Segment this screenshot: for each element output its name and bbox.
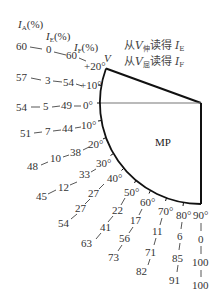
angle-label: 40° bbox=[107, 172, 122, 184]
angle-label: +10° bbox=[80, 79, 102, 91]
header-ia: IA(%) bbox=[17, 18, 44, 32]
if-value: 44 bbox=[62, 122, 74, 134]
ie-value: 41 bbox=[100, 221, 111, 233]
if-value: 33 bbox=[79, 168, 91, 180]
note-flexion: 从V屈读得IF bbox=[124, 54, 184, 69]
sector bbox=[97, 69, 201, 207]
ie-value: 10 bbox=[50, 152, 62, 164]
ie-value: 56 bbox=[119, 232, 131, 244]
ia-value: 51 bbox=[20, 127, 31, 139]
ia-value: 82 bbox=[136, 265, 147, 277]
angle-label: 60° bbox=[140, 196, 155, 208]
ia-value: 60 bbox=[16, 40, 28, 52]
ia-value: 57 bbox=[16, 71, 28, 83]
if-value: 17 bbox=[130, 214, 142, 226]
ia-ie-if-diagram: IA(%) IE(%) IF(%) V 从V伸读得IE 从V屈读得IF MP 6… bbox=[0, 0, 222, 304]
ia-value: 54 bbox=[58, 217, 70, 229]
angle-label: 80° bbox=[176, 209, 191, 221]
if-value: 38 bbox=[70, 146, 82, 158]
ie-value: 85 bbox=[172, 252, 184, 264]
angle-label: 90° bbox=[193, 209, 208, 221]
note-extension: 从V伸读得IE bbox=[124, 38, 184, 53]
region-label-mp: MP bbox=[155, 136, 171, 148]
ia-value: 73 bbox=[108, 251, 120, 263]
ie-value: 100 bbox=[192, 256, 209, 268]
ia-value: 45 bbox=[36, 190, 48, 202]
ie-value: 12 bbox=[58, 181, 69, 193]
ia-value: 54 bbox=[16, 101, 28, 113]
angle-label: +20° bbox=[84, 60, 106, 72]
radial-scale: 40° 27 27 54 50° 22 41 63 60° 17 56 73 7… bbox=[58, 172, 209, 291]
if-value: 27 bbox=[88, 187, 100, 199]
angle-label: 0° bbox=[83, 99, 93, 111]
left-scale: 60 0 60 +20° 57 3 54 +10° 54 5 49 0° 51 … bbox=[16, 40, 111, 202]
if-value: 22 bbox=[112, 204, 123, 216]
ie-value: 3 bbox=[45, 74, 51, 86]
angle-label: 20° bbox=[88, 138, 103, 150]
ie-value: 0 bbox=[46, 43, 52, 55]
if-value: 0 bbox=[198, 233, 204, 245]
ia-value: 100 bbox=[192, 279, 209, 291]
angle-label: 70° bbox=[158, 205, 173, 217]
angle-label: 30° bbox=[96, 157, 111, 169]
ia-value: 91 bbox=[169, 274, 180, 286]
ia-value: 63 bbox=[81, 237, 93, 249]
ie-value: 71 bbox=[145, 246, 156, 258]
ie-value: 7 bbox=[45, 125, 51, 137]
if-value: 60 bbox=[66, 49, 78, 61]
angle-label: 50° bbox=[124, 186, 139, 198]
if-value: 54 bbox=[63, 76, 75, 88]
ie-value: 27 bbox=[75, 202, 87, 214]
ie-value: 5 bbox=[43, 100, 49, 112]
if-value: 6 bbox=[177, 230, 183, 242]
angle-label: 10° bbox=[81, 119, 96, 131]
if-value: 49 bbox=[61, 99, 73, 111]
if-value: 11 bbox=[152, 225, 163, 237]
header-ie: IE(%) bbox=[45, 30, 71, 44]
v-line bbox=[106, 69, 201, 104]
ia-value: 48 bbox=[27, 160, 39, 172]
